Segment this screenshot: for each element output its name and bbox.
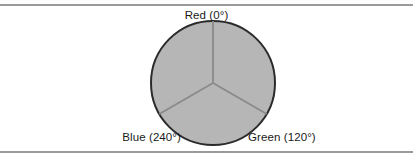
label-green: Green (120°) bbox=[248, 131, 398, 143]
hue-circle-figure: Red (0°) Blue (240°) Green (120°) bbox=[0, 0, 413, 161]
label-red: Red (0°) bbox=[0, 9, 413, 21]
label-blue: Blue (240°) bbox=[41, 131, 181, 143]
